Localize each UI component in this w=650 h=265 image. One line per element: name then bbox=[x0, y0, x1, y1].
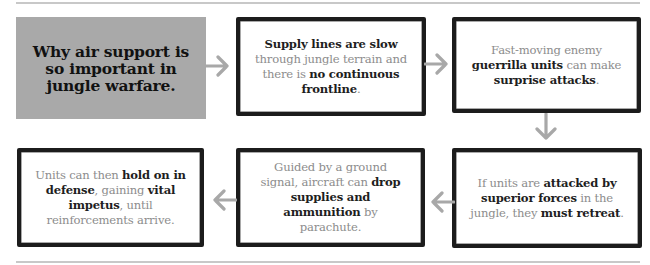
body-text: Units can then bbox=[35, 168, 122, 182]
body-text: . bbox=[596, 73, 600, 87]
arrow-right-icon bbox=[424, 53, 450, 75]
step-box-5: Units can then hold on in defense, gaini… bbox=[17, 148, 204, 247]
body-text: can make bbox=[563, 58, 621, 72]
body-text: If units are bbox=[478, 176, 544, 190]
arrow-down-icon bbox=[535, 113, 557, 141]
emphasis-text: must retreat bbox=[541, 206, 620, 220]
arrow-left-icon bbox=[429, 191, 455, 213]
step-box-3: If units are attacked by superior forces… bbox=[452, 148, 642, 248]
arrow-right-icon bbox=[205, 55, 231, 77]
body-text: Guided by a ground signal, aircraft can bbox=[261, 160, 387, 189]
step-box-2: Fast-moving enemy guerrilla units can ma… bbox=[452, 17, 641, 113]
emphasis-text: no continuous frontline bbox=[302, 67, 400, 96]
body-text: . bbox=[357, 82, 361, 96]
body-text: , gaining bbox=[95, 183, 148, 197]
step-box-4: Guided by a ground signal, aircraft can … bbox=[236, 148, 425, 247]
body-text: . bbox=[620, 206, 624, 220]
emphasis-text: surprise attacks bbox=[494, 73, 596, 87]
step-text-4: Guided by a ground signal, aircraft can … bbox=[240, 160, 421, 235]
emphasis-text: guerrilla units bbox=[472, 58, 563, 72]
top-divider bbox=[16, 2, 640, 4]
body-text: Fast-moving enemy bbox=[491, 43, 602, 57]
title-box: Why air support is so important in jungl… bbox=[16, 17, 206, 119]
step-text-3: If units are attacked by superior forces… bbox=[456, 176, 638, 221]
step-text-5: Units can then hold on in defense, gaini… bbox=[21, 168, 200, 228]
step-text-2: Fast-moving enemy guerrilla units can ma… bbox=[456, 43, 637, 88]
emphasis-text: Supply lines are slow bbox=[265, 37, 398, 51]
step-box-1: Supply lines are slow through jungle ter… bbox=[236, 17, 426, 116]
title-text: Why air support is so important in jungl… bbox=[16, 43, 206, 94]
step-text-1: Supply lines are slow through jungle ter… bbox=[240, 37, 422, 97]
arrow-left-icon bbox=[211, 189, 237, 211]
bottom-divider bbox=[16, 261, 640, 263]
